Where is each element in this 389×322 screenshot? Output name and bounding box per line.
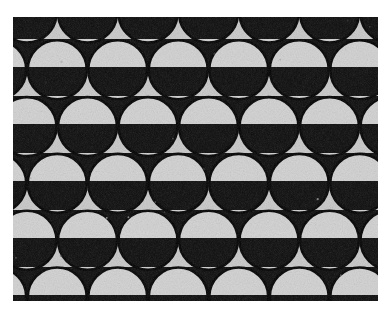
film-speckle [154,201,156,203]
film-speckle [15,257,17,259]
film-speckle [106,217,108,219]
film-speckle [164,211,165,212]
film-speckle [340,274,342,276]
pattern-svg [13,17,378,301]
packed-circle-pattern-figure [13,17,378,301]
film-speckle [127,216,129,218]
film-speckle [60,255,62,257]
film-speckle [203,168,205,170]
film-speckle [369,26,371,28]
film-speckle [263,59,265,61]
film-speckle [80,219,81,220]
film-speckle [22,160,23,161]
film-speckle [345,49,346,50]
film-speckle [30,177,31,178]
film-speckle [279,59,281,61]
film-speckle [317,198,319,200]
film-speckle [142,52,143,53]
film-speckle [202,218,203,219]
film-speckle [45,81,47,83]
image-canvas [0,0,389,322]
film-speckle [347,20,349,22]
film-speckle [84,210,85,211]
film-speckle [213,53,215,55]
film-speckle [358,212,359,213]
film-speckle [68,146,69,147]
film-speckle [172,138,174,140]
film-speckle [60,61,62,63]
